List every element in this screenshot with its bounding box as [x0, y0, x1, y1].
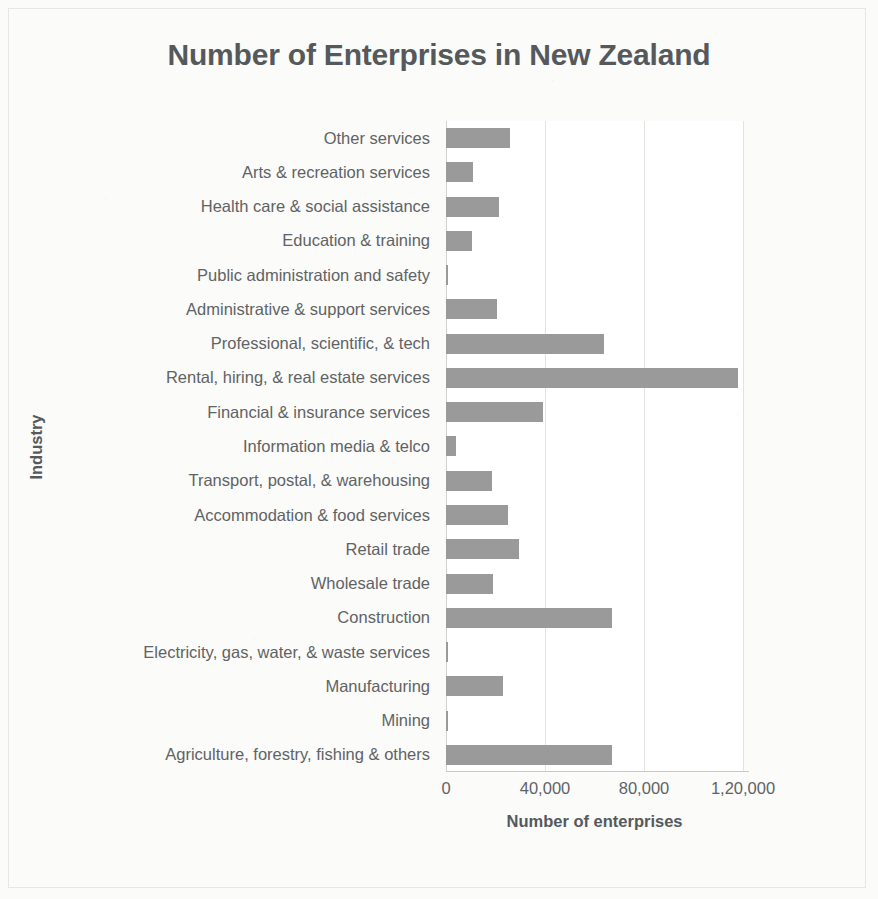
y-axis-tick-label: Construction — [337, 601, 430, 635]
y-axis-tick-label: Education & training — [282, 224, 430, 258]
y-axis-tick-label: Rental, hiring, & real estate services — [166, 361, 430, 395]
y-axis-tick-label: Wholesale trade — [311, 566, 430, 600]
x-axis-line — [446, 771, 749, 772]
bar — [446, 642, 448, 662]
bar-row — [446, 498, 743, 532]
bar — [446, 299, 497, 319]
bar-row — [446, 566, 743, 600]
x-axis-tick-labels: 040,00080,0001,20,000 — [446, 779, 743, 805]
bar-row — [446, 703, 743, 737]
bar — [446, 471, 492, 491]
bar-row — [446, 121, 743, 155]
bar-series — [446, 121, 743, 772]
bar-row — [446, 464, 743, 498]
chart-title: Number of Enterprises in New Zealand — [0, 38, 878, 72]
bar — [446, 197, 499, 217]
x-axis-tick-label: 0 — [441, 779, 450, 798]
bar — [446, 128, 510, 148]
bar — [446, 608, 612, 628]
bar-row — [446, 292, 743, 326]
bar — [446, 505, 508, 525]
y-axis-tick-label: Transport, postal, & warehousing — [188, 464, 430, 498]
gridline — [743, 121, 744, 772]
bar-row — [446, 738, 743, 772]
bar — [446, 162, 473, 182]
bar — [446, 436, 456, 456]
chart-page: Number of Enterprises in New Zealand Oth… — [0, 0, 878, 899]
y-axis-tick-label: Professional, scientific, & tech — [211, 327, 430, 361]
y-axis-tick-label: Administrative & support services — [186, 292, 430, 326]
bar — [446, 334, 604, 354]
bar-row — [446, 395, 743, 429]
y-axis-title: Industry — [27, 414, 46, 479]
bar-row — [446, 361, 743, 395]
bar-row — [446, 224, 743, 258]
bar-row — [446, 532, 743, 566]
bar-row — [446, 155, 743, 189]
bar — [446, 745, 612, 765]
y-axis-tick-label: Retail trade — [346, 532, 430, 566]
x-axis-title: Number of enterprises — [446, 812, 743, 831]
y-axis-tick-label: Other services — [324, 121, 430, 155]
y-axis-category-labels: Other servicesArts & recreation services… — [40, 121, 438, 772]
y-axis-tick-label: Information media & telco — [243, 429, 430, 463]
bar — [446, 676, 503, 696]
plot-area — [446, 121, 743, 772]
y-axis-tick-label: Health care & social assistance — [201, 190, 430, 224]
bar-row — [446, 327, 743, 361]
y-axis-tick-label: Arts & recreation services — [242, 155, 430, 189]
y-axis-tick-label: Accommodation & food services — [194, 498, 430, 532]
y-axis-tick-label: Electricity, gas, water, & waste service… — [143, 635, 430, 669]
bar-row — [446, 635, 743, 669]
x-axis-tick-label: 1,20,000 — [711, 779, 775, 798]
bar — [446, 402, 543, 422]
bar-row — [446, 429, 743, 463]
y-axis-tick-label: Public administration and safety — [197, 258, 430, 292]
y-axis-tick-label: Manufacturing — [325, 669, 430, 703]
bar — [446, 539, 519, 559]
bar-row — [446, 258, 743, 292]
bar — [446, 265, 448, 285]
x-axis-tick-label: 40,000 — [520, 779, 570, 798]
y-axis-tick-label: Agriculture, forestry, fishing & others — [165, 738, 430, 772]
bar — [446, 368, 738, 388]
bar — [446, 711, 448, 731]
y-axis-tick-label: Financial & insurance services — [207, 395, 430, 429]
bar — [446, 574, 493, 594]
bar-row — [446, 601, 743, 635]
y-axis-tick-label: Mining — [381, 703, 430, 737]
bar-row — [446, 190, 743, 224]
bar-row — [446, 669, 743, 703]
x-axis-tick-label: 80,000 — [619, 779, 669, 798]
bar — [446, 231, 472, 251]
